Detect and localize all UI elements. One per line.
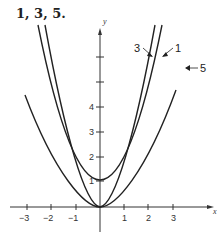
curve-label-3: 3 [134,42,140,54]
leader-arrow-icon [185,65,190,71]
x-tick-label: −1 [68,213,78,223]
y-tick-label: 2 [89,152,94,162]
parabola-chart: x y −3 −2 −1 1 2 3 1 2 3 4 [0,0,221,236]
x-tick-label: 1 [122,213,127,223]
curve-label-1: 1 [175,42,181,54]
y-axis-label: y [102,17,107,26]
x-tick-label: −2 [43,213,53,223]
y-axis-arrow-icon [98,28,102,35]
curve-label-5: 5 [200,62,206,74]
x-tick-label: −3 [19,213,29,223]
y-tick-label: 3 [89,127,94,137]
x-tick-label: 3 [171,213,176,223]
leader-lines [143,48,198,68]
x-axis-label: x [212,207,217,216]
x-tick-label: 2 [146,213,151,223]
y-tick-label: 4 [89,102,94,112]
